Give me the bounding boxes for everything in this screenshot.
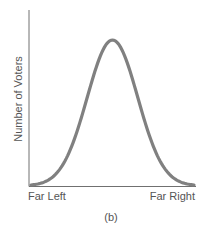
x-tick-label-far-left: Far Left [28,190,66,202]
distribution-curve [31,40,194,185]
x-tick-label-far-right: Far Right [150,190,195,202]
y-axis-label: Number of Voters [12,56,24,142]
figure-caption: (b) [104,211,117,223]
